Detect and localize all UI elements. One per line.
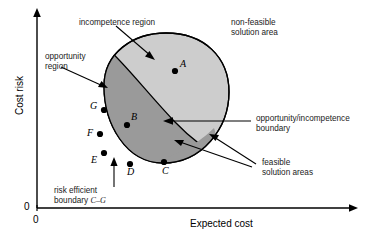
annotation-feasible-line2: solution areas [262,168,313,178]
annotation-non-feasible-line2: solution area [231,28,278,38]
point-label-e: E [91,154,97,165]
annotation-risk-efficient-line1: risk efficient [54,186,97,196]
annotation-opportunity-line1: opportunity [45,52,86,62]
data-point-f[interactable] [97,131,103,137]
point-label-b: B [131,111,137,122]
data-point-b[interactable] [124,122,130,128]
risk-efficient-range: C–G [90,196,105,205]
y-axis-arrowhead [33,8,41,17]
point-label-a: A [180,58,186,69]
feasible-solution-ellipse [85,33,235,185]
risk-efficient-boundary-word: boundary [54,196,90,205]
y-origin-label: 0 [24,201,30,212]
annotation-risk-efficient-line2: boundary C–G [54,196,106,206]
figure-container: incompetence region non-feasible solutio… [0,0,381,238]
point-label-g: G [90,100,97,111]
data-point-e[interactable] [101,150,107,156]
annotation-boundary-line1: opportunity/incompetence [256,114,350,124]
annotation-feasible-line1: feasible [262,158,290,168]
point-label-c: C [162,165,169,176]
data-point-a[interactable] [172,68,178,74]
point-label-f: F [87,127,93,138]
x-origin-label: 0 [33,214,39,225]
y-axis-title: Cost risk [14,76,25,115]
x-axis-arrowhead [349,204,358,212]
x-axis-title: Expected cost [190,218,253,229]
annotation-opportunity-line2: region [45,62,68,72]
point-label-d: D [127,166,134,177]
arrowhead-risk-efficient [110,157,117,166]
data-point-g[interactable] [101,107,107,113]
annotation-incompetence-region: incompetence region [79,18,155,28]
annotation-boundary-line2: boundary [256,124,290,134]
annotation-non-feasible-line1: non-feasible [231,18,276,28]
leader-feasible-1 [214,137,256,164]
